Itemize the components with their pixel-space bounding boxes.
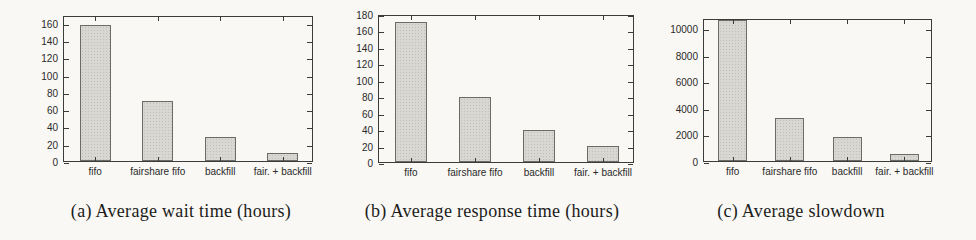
y-tick-mark [307, 25, 312, 26]
y-tick-mark [704, 136, 709, 137]
y-tick-label: 2000 [658, 130, 698, 142]
y-tick-mark [307, 94, 312, 95]
y-tick-label: 4000 [658, 104, 698, 116]
y-tick-label: 20 [18, 140, 58, 152]
y-tick-mark [64, 146, 69, 147]
y-tick-mark [64, 128, 69, 129]
x-tick-mark [411, 158, 412, 162]
y-tick-mark [64, 42, 69, 43]
x-tick-mark [475, 158, 476, 162]
x-tick-mark [733, 157, 734, 161]
y-tick-label: 140 [18, 36, 58, 48]
x-category-label: fair. + backfill [254, 166, 312, 177]
y-tick-mark [628, 49, 633, 50]
x-tick-mark [904, 20, 905, 24]
y-tick-mark [307, 59, 312, 60]
y-tick-mark [704, 83, 709, 84]
y-tick-mark [307, 77, 312, 78]
y-tick-mark [379, 65, 384, 66]
x-tick-mark [95, 17, 96, 21]
y-tick-mark [379, 82, 384, 83]
x-tick-mark [847, 20, 848, 24]
y-tick-mark [704, 57, 709, 58]
x-tick-mark [158, 157, 159, 161]
y-tick-mark [64, 111, 69, 112]
y-tick-mark [704, 110, 709, 111]
x-tick-mark [539, 16, 540, 20]
y-tick-mark [379, 115, 384, 116]
y-tick-label: 100 [18, 71, 58, 83]
y-tick-label: 140 [333, 43, 373, 55]
chart-c-plot-area: 0200040006000800010000fifofairshare fifo… [703, 19, 932, 162]
bar-fifo [80, 25, 111, 161]
y-tick-label: 6000 [658, 77, 698, 89]
x-tick-mark [475, 16, 476, 20]
x-tick-mark [283, 157, 284, 161]
x-tick-mark [95, 157, 96, 161]
y-tick-mark [379, 131, 384, 132]
chart-b-plot-area: 020406080100120140160180fifofairshare fi… [378, 15, 634, 163]
y-tick-mark [64, 94, 69, 95]
x-tick-mark [847, 157, 848, 161]
y-tick-mark [926, 163, 931, 164]
x-tick-mark [904, 157, 905, 161]
y-tick-mark [926, 57, 931, 58]
x-tick-mark [603, 16, 604, 20]
y-tick-mark [628, 164, 633, 165]
figure: 020406080100120140160fifofairshare fifob… [0, 0, 976, 240]
y-tick-mark [926, 136, 931, 137]
x-category-label: backfill [524, 167, 555, 178]
bar-fifo [718, 20, 747, 161]
chart-b-caption: (b) Average response time (hours) [365, 201, 619, 222]
y-tick-label: 100 [333, 76, 373, 88]
x-category-label: fifo [404, 167, 417, 178]
y-tick-mark [307, 111, 312, 112]
y-tick-mark [64, 163, 69, 164]
x-category-label: backfill [832, 166, 863, 177]
y-tick-mark [628, 65, 633, 66]
y-tick-mark [379, 32, 384, 33]
bar-fairshare-fifo [775, 118, 804, 161]
y-tick-mark [64, 59, 69, 60]
y-tick-mark [628, 32, 633, 33]
y-tick-mark [628, 115, 633, 116]
y-tick-mark [307, 42, 312, 43]
x-tick-mark [220, 157, 221, 161]
x-tick-mark [603, 158, 604, 162]
x-category-label: fifo [726, 166, 739, 177]
bar-fifo [395, 22, 427, 162]
y-tick-mark [926, 30, 931, 31]
x-tick-mark [220, 17, 221, 21]
x-tick-mark [790, 157, 791, 161]
y-tick-mark [926, 110, 931, 111]
y-tick-mark [307, 146, 312, 147]
y-tick-label: 160 [18, 19, 58, 31]
y-tick-label: 60 [333, 109, 373, 121]
x-tick-mark [733, 20, 734, 24]
y-tick-mark [307, 128, 312, 129]
x-tick-mark [790, 20, 791, 24]
y-tick-label: 120 [333, 59, 373, 71]
y-tick-mark [704, 163, 709, 164]
y-tick-mark [926, 83, 931, 84]
y-tick-mark [628, 131, 633, 132]
y-tick-mark [64, 77, 69, 78]
y-tick-label: 40 [18, 122, 58, 134]
y-tick-mark [628, 16, 633, 17]
x-category-label: fairshare fifo [130, 166, 185, 177]
x-category-label: backfill [205, 166, 236, 177]
y-tick-label: 8000 [658, 51, 698, 63]
y-tick-label: 0 [658, 157, 698, 169]
bar-fairshare-fifo [142, 101, 173, 161]
chart-a-plot-area: 020406080100120140160fifofairshare fifob… [63, 16, 313, 162]
chart-c-caption: (c) Average slowdown [717, 201, 885, 222]
y-tick-label: 80 [333, 92, 373, 104]
x-tick-mark [411, 16, 412, 20]
bar-fairshare-fifo [459, 97, 491, 162]
y-tick-label: 60 [18, 105, 58, 117]
x-category-label: fairshare fifo [762, 166, 817, 177]
y-tick-mark [379, 164, 384, 165]
y-tick-mark [379, 148, 384, 149]
y-tick-mark [379, 49, 384, 50]
y-tick-label: 20 [333, 142, 373, 154]
